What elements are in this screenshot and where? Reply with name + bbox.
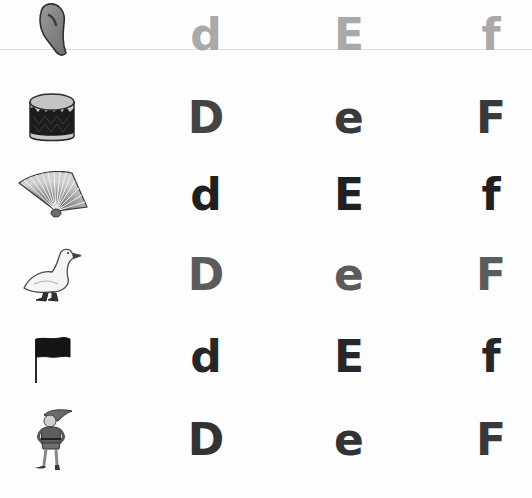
drum-icon xyxy=(14,83,90,153)
letter-option-1[interactable]: d xyxy=(171,0,241,70)
letter-option-1[interactable]: d xyxy=(171,160,241,230)
row-flag: d E f xyxy=(0,322,532,392)
letter-option-3[interactable]: F xyxy=(456,240,526,310)
letter-option-3[interactable]: f xyxy=(456,322,526,392)
flag-icon xyxy=(14,322,90,392)
row-ear: d E f xyxy=(0,0,532,70)
letter-option-2[interactable]: e xyxy=(314,405,384,475)
letter-option-3[interactable]: F xyxy=(456,405,526,475)
row-drum: D e F xyxy=(0,83,532,153)
letter-option-2[interactable]: E xyxy=(314,0,384,70)
letter-option-2[interactable]: e xyxy=(314,83,384,153)
letter-option-2[interactable]: E xyxy=(314,322,384,392)
letter-option-1[interactable]: d xyxy=(171,322,241,392)
fan-icon xyxy=(14,160,90,230)
row-elf: D e F xyxy=(0,405,532,475)
letter-option-3[interactable]: f xyxy=(456,0,526,70)
letter-option-3[interactable]: f xyxy=(456,160,526,230)
letter-option-2[interactable]: e xyxy=(314,240,384,310)
letter-matching-worksheet: d E f D e F xyxy=(0,0,532,498)
goose-icon xyxy=(14,240,90,310)
ear-icon xyxy=(14,0,90,65)
letter-option-1[interactable]: D xyxy=(171,83,241,153)
row-goose: D e F xyxy=(0,240,532,310)
letter-option-1[interactable]: D xyxy=(171,405,241,475)
letter-option-2[interactable]: E xyxy=(314,160,384,230)
letter-option-3[interactable]: F xyxy=(456,83,526,153)
letter-option-1[interactable]: D xyxy=(171,240,241,310)
elf-icon xyxy=(14,405,90,475)
row-fan: d E f xyxy=(0,160,532,230)
